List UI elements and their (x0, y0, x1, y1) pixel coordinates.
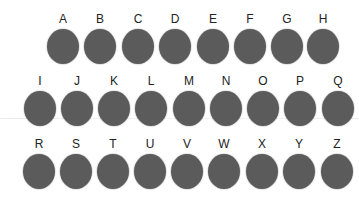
letter-item-b[interactable]: B (82, 12, 118, 72)
letter-item-w[interactable]: W (206, 137, 242, 197)
letter-item-e[interactable]: E (195, 12, 231, 72)
letter-item-p[interactable]: P (282, 74, 318, 134)
circle-button[interactable] (47, 29, 79, 64)
letter-item-d[interactable]: D (157, 12, 193, 72)
letter-item-u[interactable]: U (132, 137, 168, 197)
letter-label: R (21, 137, 57, 151)
circle-button[interactable] (322, 91, 354, 126)
letter-label: F (232, 12, 268, 26)
letter-label: L (133, 74, 169, 88)
letter-label: A (45, 12, 81, 26)
letter-item-g[interactable]: G (269, 12, 305, 72)
circle-button[interactable] (307, 29, 339, 64)
letter-label: H (305, 12, 341, 26)
circle-button[interactable] (321, 154, 353, 189)
letter-label: Y (281, 137, 317, 151)
circle-button[interactable] (84, 29, 116, 64)
letter-label: O (245, 74, 281, 88)
circle-button[interactable] (134, 154, 166, 189)
letter-item-k[interactable]: K (96, 74, 132, 134)
circle-button[interactable] (122, 29, 154, 64)
letter-item-j[interactable]: J (59, 74, 95, 134)
letter-label: C (120, 12, 156, 26)
circle-button[interactable] (234, 29, 266, 64)
letter-item-a[interactable]: A (45, 12, 81, 72)
letter-item-q[interactable]: Q (320, 74, 356, 134)
letter-item-n[interactable]: N (208, 74, 244, 134)
letter-item-i[interactable]: I (22, 74, 58, 134)
letter-item-y[interactable]: Y (281, 137, 317, 197)
letter-item-z[interactable]: Z (319, 137, 355, 197)
letter-label: T (95, 137, 131, 151)
circle-button[interactable] (173, 91, 205, 126)
letter-label: I (22, 74, 58, 88)
circle-button[interactable] (283, 154, 315, 189)
letter-label: Q (320, 74, 356, 88)
letter-label: N (208, 74, 244, 88)
letter-label: Z (319, 137, 355, 151)
letter-label: D (157, 12, 193, 26)
letter-label: G (269, 12, 305, 26)
letter-item-t[interactable]: T (95, 137, 131, 197)
letter-label: J (59, 74, 95, 88)
letter-label: E (195, 12, 231, 26)
circle-button[interactable] (210, 91, 242, 126)
circle-button[interactable] (97, 154, 129, 189)
letter-item-o[interactable]: O (245, 74, 281, 134)
letter-label: V (169, 137, 205, 151)
circle-button[interactable] (60, 154, 92, 189)
circle-button[interactable] (247, 91, 279, 126)
letter-item-l[interactable]: L (133, 74, 169, 134)
letter-label: W (206, 137, 242, 151)
letter-item-s[interactable]: S (58, 137, 94, 197)
circle-button[interactable] (24, 91, 56, 126)
letter-item-v[interactable]: V (169, 137, 205, 197)
letter-label: M (171, 74, 207, 88)
circle-button[interactable] (135, 91, 167, 126)
letter-item-m[interactable]: M (171, 74, 207, 134)
letter-label: B (82, 12, 118, 26)
letter-label: K (96, 74, 132, 88)
circle-button[interactable] (271, 29, 303, 64)
letter-item-h[interactable]: H (305, 12, 341, 72)
circle-button[interactable] (208, 154, 240, 189)
circle-button[interactable] (23, 154, 55, 189)
letter-item-c[interactable]: C (120, 12, 156, 72)
circle-button[interactable] (61, 91, 93, 126)
letter-label: X (244, 137, 280, 151)
letter-item-x[interactable]: X (244, 137, 280, 197)
circle-button[interactable] (98, 91, 130, 126)
letter-label: S (58, 137, 94, 151)
letter-item-r[interactable]: R (21, 137, 57, 197)
circle-button[interactable] (159, 29, 191, 64)
circle-button[interactable] (246, 154, 278, 189)
letter-label: U (132, 137, 168, 151)
circle-button[interactable] (197, 29, 229, 64)
letter-label: P (282, 74, 318, 88)
circle-button[interactable] (284, 91, 316, 126)
letter-item-f[interactable]: F (232, 12, 268, 72)
circle-button[interactable] (171, 154, 203, 189)
